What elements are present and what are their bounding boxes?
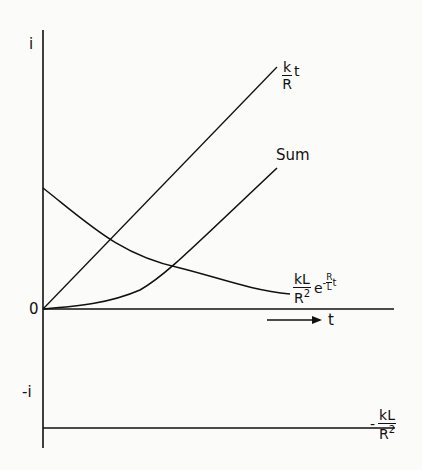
exponential-curve-label: kL R2 e - RL t bbox=[293, 272, 336, 305]
sum-curve bbox=[43, 168, 277, 309]
y-axis-label-neg-i: -i bbox=[22, 385, 32, 400]
exponential-decay-curve bbox=[43, 188, 290, 294]
origin-label: 0 bbox=[29, 302, 39, 317]
exp-label-denominator: R2 bbox=[294, 288, 310, 305]
exp-label-exponent: - RL t bbox=[323, 273, 337, 292]
diagram-canvas bbox=[0, 0, 422, 470]
time-arrow-head bbox=[312, 316, 322, 324]
constant-label-minus: - bbox=[370, 416, 375, 432]
linear-label-var: t bbox=[294, 63, 300, 79]
exp-label-e: e bbox=[314, 280, 323, 296]
exp-label-numerator: kL bbox=[293, 272, 311, 288]
x-axis-label-t: t bbox=[328, 313, 334, 328]
linear-label-numerator: k bbox=[282, 60, 292, 76]
y-axis-label-i: i bbox=[29, 37, 33, 52]
constant-label-numerator: kL bbox=[378, 408, 396, 424]
linear-curve-label: k R t bbox=[282, 60, 300, 91]
constant-line-label: - kL R2 bbox=[370, 408, 396, 441]
constant-label-denominator: R2 bbox=[379, 424, 395, 441]
linear-current-line bbox=[43, 67, 277, 309]
linear-label-denominator: R bbox=[282, 76, 292, 91]
sum-curve-label: Sum bbox=[276, 148, 310, 163]
